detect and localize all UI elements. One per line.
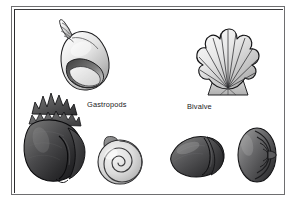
conch-geometry <box>24 93 85 183</box>
label-gastropods: Gastropods <box>87 100 127 109</box>
whelk-geometry <box>60 20 110 90</box>
snail-geometry <box>98 136 142 184</box>
label-bivalve: Bivalve <box>187 102 212 111</box>
conch-shell <box>12 84 98 186</box>
scallop-geometry <box>197 29 259 95</box>
clam-shell <box>163 128 229 186</box>
spiral-snail-shell <box>93 133 147 187</box>
clam-geometry <box>171 137 224 177</box>
ribbed-geometry <box>238 128 276 182</box>
scallop-shell <box>180 14 276 102</box>
ribbed-shell <box>234 123 284 188</box>
shell-figure: Gastropods Bivalve <box>0 0 298 212</box>
